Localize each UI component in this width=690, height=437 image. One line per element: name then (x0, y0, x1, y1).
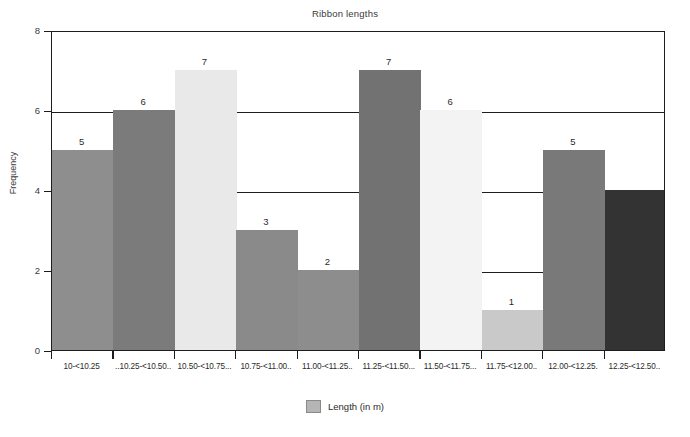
y-tick-label: 6 (20, 105, 40, 116)
x-tick-mark (112, 351, 113, 359)
x-tick-mark (174, 351, 175, 359)
x-tick-label: ..10.25-<10.50.. (115, 362, 171, 371)
bars-layer (52, 32, 664, 350)
x-tick-mark (542, 351, 543, 359)
y-axis-title: Frequency (8, 133, 18, 213)
x-tick-mark (297, 351, 298, 359)
y-tick-mark (44, 271, 51, 272)
x-tick-label: 10.75-<11.00.. (240, 362, 291, 371)
chart-legend: Length (in m) (0, 400, 690, 413)
bar-value-label: 7 (202, 56, 207, 67)
y-tick-label: 2 (20, 265, 40, 276)
histogram-chart: Ribbon lengths Frequency 02468 567327615… (0, 0, 690, 437)
bar-value-label: 6 (140, 96, 145, 107)
legend-swatch-icon (306, 400, 321, 413)
x-tick-mark (51, 351, 52, 359)
bar-value-label: 6 (447, 96, 452, 107)
bar-value-label: 2 (325, 256, 330, 267)
bar (420, 110, 482, 350)
bar (236, 230, 298, 350)
bar (298, 270, 360, 350)
x-tick-mark (604, 351, 605, 359)
y-tick-mark (44, 191, 51, 192)
bar-value-label: 5 (79, 136, 84, 147)
x-tick-label: 10-<10.25 (64, 362, 100, 371)
bar (605, 190, 665, 350)
y-tick-label: 4 (20, 185, 40, 196)
x-tick-label: 11.50-<11.75... (424, 362, 477, 371)
x-tick-mark (419, 351, 420, 359)
x-tick-label: 12.25-<12.50.. (608, 362, 660, 371)
x-tick-mark (481, 351, 482, 359)
x-axis-labels: 10-<10.25..10.25-<10.50..10.50-<10.75...… (51, 362, 665, 376)
x-tick-label: 11.25-<11.50... (362, 362, 415, 371)
legend-label: Length (in m) (328, 401, 384, 412)
y-tick-mark (44, 111, 51, 112)
bar-value-label: 3 (263, 216, 268, 227)
x-tick-label: 10.50-<10.75... (178, 362, 232, 371)
plot-area (51, 31, 665, 351)
bar (52, 150, 114, 350)
y-tick-mark (44, 351, 51, 352)
bar (113, 110, 175, 350)
x-tick-label: 12.00-<12.25. (548, 362, 597, 371)
bar-value-label: 1 (509, 296, 514, 307)
x-tick-label: 11.75-<12.00.. (486, 362, 537, 371)
x-tick-mark (235, 351, 236, 359)
bar-value-label: 7 (386, 56, 391, 67)
y-tick-mark (44, 31, 51, 32)
bar-value-label: 5 (570, 136, 575, 147)
y-tick-label: 0 (20, 345, 40, 356)
bar (543, 150, 605, 350)
chart-title: Ribbon lengths (0, 8, 690, 19)
bar (359, 70, 421, 350)
x-tick-label: 11.00-<11.25.. (302, 362, 352, 371)
bar (482, 310, 544, 350)
y-tick-label: 8 (20, 25, 40, 36)
bar (175, 70, 237, 350)
x-tick-mark (358, 351, 359, 359)
